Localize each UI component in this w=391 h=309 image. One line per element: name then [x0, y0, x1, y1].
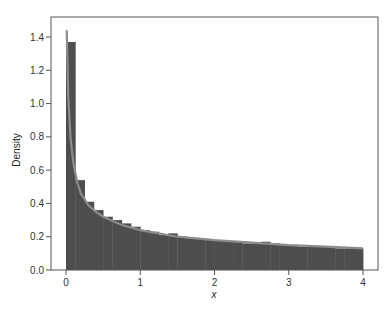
- histogram-bar: [112, 220, 122, 270]
- histogram-bar: [242, 243, 252, 270]
- histogram-bar: [140, 230, 150, 270]
- histogram-bar: [205, 240, 215, 270]
- histogram-bar: [224, 242, 234, 270]
- y-tick-label: 1.4: [30, 32, 44, 43]
- x-tick-label: 2: [212, 277, 218, 288]
- histogram-bar: [177, 237, 187, 270]
- histogram-bar: [168, 233, 178, 270]
- y-tick-label: 1.0: [30, 98, 44, 109]
- histogram-bar: [252, 243, 262, 270]
- histogram-bars: [66, 42, 363, 270]
- x-tick-label: 3: [286, 277, 292, 288]
- histogram-bar: [150, 232, 160, 270]
- x-tick-label: 1: [137, 277, 143, 288]
- histogram-bar: [85, 202, 95, 270]
- x-axis-title: x: [211, 289, 218, 300]
- histogram-bar: [289, 245, 299, 270]
- x-tick-label: 4: [360, 277, 366, 288]
- y-tick-label: 0.2: [30, 231, 44, 242]
- x-axis: 01234: [63, 270, 366, 288]
- histogram-bar: [196, 238, 206, 270]
- y-axis: 0.00.20.40.60.81.01.21.4: [30, 32, 51, 276]
- histogram-bar: [187, 238, 197, 270]
- histogram-bar: [215, 240, 225, 270]
- histogram-bar: [307, 247, 317, 270]
- histogram-bar: [270, 243, 280, 270]
- histogram-bar: [298, 247, 308, 270]
- histogram-bar: [159, 235, 169, 270]
- histogram-bar: [317, 247, 327, 270]
- histogram-bar: [131, 227, 141, 270]
- y-tick-label: 0.4: [30, 198, 44, 209]
- histogram-bar: [279, 245, 289, 270]
- histogram-bar: [261, 242, 271, 270]
- histogram-bar: [335, 248, 345, 270]
- histogram-bar: [94, 210, 104, 270]
- histogram-chart: 0.00.20.40.60.81.01.21.4 01234 Density x: [0, 0, 391, 309]
- y-tick-label: 0.0: [30, 265, 44, 276]
- y-tick-label: 0.8: [30, 131, 44, 142]
- histogram-bar: [354, 248, 364, 270]
- y-tick-label: 1.2: [30, 65, 44, 76]
- histogram-bar: [122, 223, 132, 270]
- density-curve: [67, 30, 363, 248]
- histogram-bar: [326, 247, 336, 270]
- y-tick-label: 0.6: [30, 165, 44, 176]
- histogram-bar: [103, 217, 113, 270]
- histogram-bar: [344, 248, 354, 270]
- y-axis-title: Density: [11, 133, 22, 166]
- x-tick-label: 0: [63, 277, 69, 288]
- histogram-bar: [233, 242, 243, 270]
